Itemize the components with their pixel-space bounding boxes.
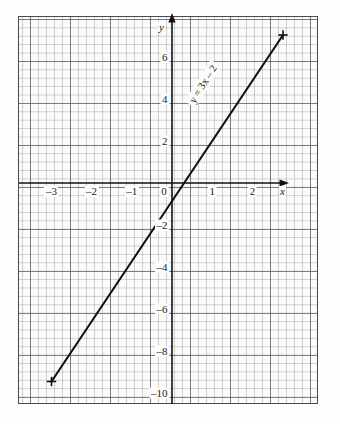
y-axis-arrow-icon bbox=[168, 13, 175, 23]
y-tick-label-minus4: –4 bbox=[155, 262, 169, 273]
y-tick-label-2: 2 bbox=[161, 136, 170, 147]
line-y-equals-3x-minus-2 bbox=[52, 35, 284, 382]
x-tick-label-minus3: –3 bbox=[44, 186, 58, 197]
x-tick-label-minus2: –2 bbox=[85, 186, 99, 197]
y-tick-label-minus2: –2 bbox=[155, 220, 169, 231]
y-tick-label-minus6: –6 bbox=[155, 304, 169, 315]
x-tick-label-zero: 0 bbox=[160, 186, 169, 197]
y-tick-label-6: 6 bbox=[161, 52, 170, 63]
y-axis-name-label: y bbox=[158, 22, 165, 33]
x-axis-name-label: x bbox=[279, 186, 286, 197]
x-tick-label-2: 2 bbox=[248, 186, 257, 197]
plot-svg bbox=[0, 0, 340, 424]
graph-figure: –3 –2 –1 0 1 2 x 6 4 2 –2 –4 –6 –8 –10 –… bbox=[0, 0, 340, 424]
y-tick-label-minus8: –8 bbox=[155, 346, 169, 357]
x-tick-label-minus1: –1 bbox=[125, 186, 139, 197]
x-tick-label-1: 1 bbox=[208, 186, 217, 197]
y-tick-label-minus10: –10 bbox=[150, 388, 170, 399]
y-tick-label-4: 4 bbox=[161, 94, 170, 105]
